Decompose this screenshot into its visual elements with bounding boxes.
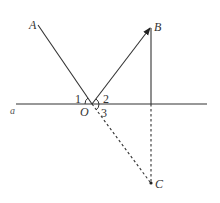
- reflection-diagram: A B O C a 1 2 3: [0, 0, 220, 203]
- label-A: A: [28, 18, 37, 32]
- point-C-dot: [149, 181, 152, 184]
- angle-3-arc: [96, 104, 99, 110]
- segment-OB-arrow: [92, 28, 150, 104]
- angle-2-label: 2: [103, 92, 109, 106]
- angle-3-label: 3: [101, 106, 107, 120]
- angle-2-arc: [96, 99, 99, 104]
- label-O: O: [80, 105, 89, 119]
- angle-1-arc: [85, 98, 88, 104]
- label-C: C: [155, 177, 164, 191]
- segment-AO: [38, 25, 92, 104]
- angle-1-label: 1: [75, 92, 81, 106]
- label-B: B: [154, 20, 162, 34]
- label-a: a: [10, 105, 15, 116]
